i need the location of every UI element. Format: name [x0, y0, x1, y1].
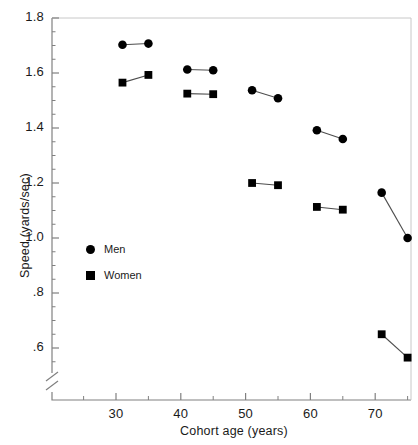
- speed-vs-cohort-age-chart: .6.81.01.21.41.61.8 3040506070 Speed (ya…: [0, 0, 418, 445]
- data-point-men: [403, 234, 412, 243]
- data-point-women: [119, 79, 127, 87]
- plot-area: [0, 0, 418, 445]
- y-tick-label: 1.8: [4, 9, 44, 24]
- data-point-men: [183, 65, 192, 74]
- data-point-women: [274, 181, 282, 189]
- x-tick-label: 40: [161, 406, 201, 421]
- x-axis-title: Cohort age (years): [0, 424, 418, 438]
- data-point-men: [274, 94, 283, 103]
- data-point-women: [248, 179, 256, 187]
- axis-ticks: [52, 18, 408, 400]
- data-markers: [118, 39, 412, 361]
- data-point-men: [339, 135, 348, 144]
- x-tick-label: 30: [96, 406, 136, 421]
- y-tick-label: 1.4: [4, 119, 44, 134]
- data-point-men: [209, 66, 218, 75]
- x-tick-label: 70: [355, 406, 395, 421]
- data-point-women: [339, 206, 347, 214]
- data-point-women: [145, 71, 153, 79]
- data-point-women: [404, 354, 412, 362]
- data-point-women: [183, 90, 191, 98]
- data-lines: [122, 44, 407, 358]
- data-point-women: [378, 330, 386, 338]
- legend-label-women: Women: [104, 269, 142, 281]
- y-tick-label: 1.6: [4, 64, 44, 79]
- legend-men-circle-icon: [86, 245, 95, 254]
- legend-women-square-icon: [86, 271, 95, 280]
- y-tick-label: .8: [4, 284, 44, 299]
- data-point-men: [313, 126, 322, 135]
- data-point-women: [209, 90, 217, 98]
- data-point-men: [248, 86, 257, 95]
- x-tick-label: 50: [226, 406, 266, 421]
- legend-label-men: Men: [104, 243, 125, 255]
- y-tick-label: .6: [4, 339, 44, 354]
- data-point-men: [377, 188, 386, 197]
- axes: [52, 18, 411, 400]
- data-point-men: [144, 39, 153, 48]
- x-tick-label: 60: [290, 406, 330, 421]
- data-point-women: [313, 203, 321, 211]
- y-axis-title: Speed (yards/sec): [18, 173, 32, 278]
- y-axis-break-icon: [46, 372, 58, 390]
- data-point-men: [118, 40, 127, 49]
